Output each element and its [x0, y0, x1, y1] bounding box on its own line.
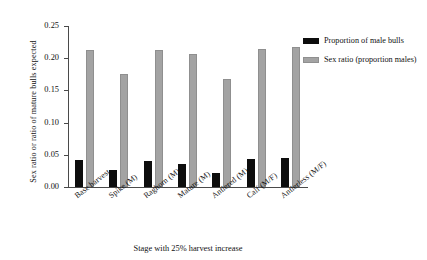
- legend-label-proportion-male-bulls: Proportion of male bulls: [324, 36, 404, 46]
- bar-sex-ratio-1: [120, 74, 128, 187]
- y-tick-label-0: 0.25: [44, 22, 59, 30]
- y-tick-label-1: 0.20: [44, 54, 59, 62]
- y-axis-line: [68, 26, 69, 188]
- bar-sex-ratio-0: [86, 50, 94, 187]
- y-tick-label-4: 0.05: [44, 151, 59, 159]
- chart-figure: Sex ratio or ratio of mature bulls expec…: [0, 0, 427, 260]
- y-tick-1: 0.20: [64, 58, 68, 59]
- y-tick-label-5: 0.00: [44, 183, 59, 191]
- y-tick-label-3: 0.10: [44, 118, 59, 126]
- y-tick-2: 0.15: [64, 90, 68, 91]
- legend-label-sex-ratio: Sex ratio (proportion males): [324, 55, 417, 65]
- y-tick-4: 0.05: [64, 155, 68, 156]
- bar-proportion-male-bulls-6: [281, 158, 289, 187]
- legend-swatch-grey-icon: [303, 57, 319, 63]
- bar-sex-ratio-4: [223, 79, 231, 187]
- legend-item-proportion-male-bulls: Proportion of male bulls: [303, 36, 427, 46]
- bar-sex-ratio-3: [189, 54, 197, 187]
- legend-item-sex-ratio: Sex ratio (proportion males): [303, 55, 427, 65]
- x-axis-title: Stage with 25% harvest increase: [68, 244, 308, 253]
- bar-proportion-male-bulls-2: [144, 161, 152, 187]
- legend-swatch-black-icon: [303, 38, 319, 44]
- bar-proportion-male-bulls-3: [178, 164, 186, 187]
- y-tick-label-2: 0.15: [44, 86, 59, 94]
- y-tick-5: 0.00: [64, 187, 68, 188]
- y-tick-3: 0.10: [64, 123, 68, 124]
- chart-legend: Proportion of male bulls Sex ratio (prop…: [303, 36, 427, 73]
- y-tick-0: 0.25: [64, 26, 68, 27]
- bar-sex-ratio-6: [292, 47, 300, 187]
- bar-proportion-male-bulls-0: [75, 160, 83, 187]
- bar-sex-ratio-2: [155, 50, 163, 187]
- plot-area: 0.250.200.150.100.050.00: [68, 26, 308, 188]
- bar-sex-ratio-5: [258, 49, 266, 187]
- y-axis-title: Sex ratio or ratio of mature bulls expec…: [29, 17, 38, 207]
